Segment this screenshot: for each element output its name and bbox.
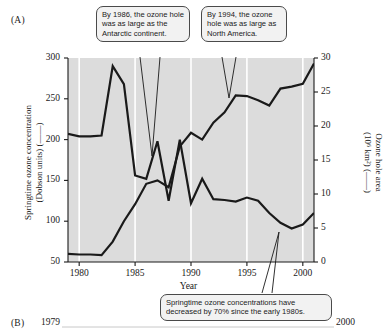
y-right-tick-label-15: 15 xyxy=(321,154,347,164)
x-axis-title: Year xyxy=(0,281,377,291)
y-axis-right-title-line1: Ozone hole area xyxy=(374,133,384,191)
y-left-tick-label-50: 50 xyxy=(34,256,60,266)
panel-b-label: (B) xyxy=(11,318,24,328)
y-left-tick-label-100: 100 xyxy=(34,215,60,225)
y-right-tick-label-0: 0 xyxy=(321,256,347,266)
panel-b-end-year: 2000 xyxy=(336,317,355,327)
y-axis-left-title-line1: Springtime ozone concentration xyxy=(23,105,33,220)
y-axis-right-title: Ozone hole area (10⁶ km²) (——) xyxy=(363,73,384,253)
y-axis-right-title-line2: (10⁶ km²) (——) xyxy=(363,132,373,193)
callout-1986: By 1986, the ozone hole was as large as … xyxy=(96,6,190,42)
x-tick-label-2000: 2000 xyxy=(283,268,323,278)
x-tick-label-1980: 1980 xyxy=(59,268,99,278)
y-left-tick-label-250: 250 xyxy=(34,93,60,103)
y-right-tick-label-30: 30 xyxy=(321,52,347,62)
callout-decline: Springtime ozone concentrations have dec… xyxy=(160,294,332,321)
y-right-tick-label-5: 5 xyxy=(321,222,347,232)
x-tick-label-1985: 1985 xyxy=(115,268,155,278)
callout-1994: By 1994, the ozone hole was as large as … xyxy=(201,6,287,42)
panel-b-start-year: 1979 xyxy=(41,317,60,327)
y-left-tick-label-300: 300 xyxy=(34,52,60,62)
y-right-tick-label-10: 10 xyxy=(321,188,347,198)
y-right-tick-label-20: 20 xyxy=(321,120,347,130)
y-left-tick-label-150: 150 xyxy=(34,174,60,184)
y-right-tick-label-25: 25 xyxy=(321,86,347,96)
x-tick-label-1990: 1990 xyxy=(171,268,211,278)
x-tick-label-1995: 1995 xyxy=(227,268,267,278)
y-left-tick-label-200: 200 xyxy=(34,134,60,144)
